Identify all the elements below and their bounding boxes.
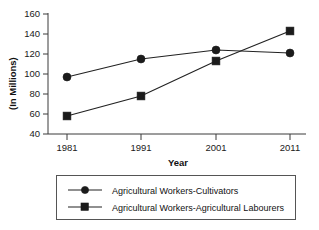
series-line-0 (67, 50, 290, 77)
y-tick-label-60: 60 (29, 108, 40, 119)
data-point-1-1991 (137, 92, 145, 100)
data-point-1-2001 (212, 57, 220, 65)
x-tick-label-1981: 1981 (56, 142, 77, 153)
circle-marker-icon (81, 186, 88, 193)
data-point-0-1991 (137, 55, 145, 63)
y-tick-label-100: 100 (24, 68, 40, 79)
data-point-1-2011 (286, 27, 294, 35)
line-chart: 160 140 120 100 80 60 40 (In Millions) 1… (0, 0, 319, 230)
y-tick-label-40: 40 (29, 128, 40, 139)
y-tick-label-80: 80 (29, 88, 40, 99)
data-point-0-2011 (286, 49, 294, 57)
data-point-1-1981 (63, 112, 71, 120)
x-tick-label-2001: 2001 (205, 142, 226, 153)
data-point-0-1981 (63, 73, 71, 81)
square-marker-icon (81, 203, 88, 210)
x-axis-title: Year (168, 157, 188, 168)
x-axis-ticks (67, 134, 290, 140)
y-tick-label-160: 160 (24, 8, 40, 19)
data-point-0-2001 (212, 46, 220, 54)
x-tick-label-1991: 1991 (130, 142, 151, 153)
y-tick-label-120: 120 (24, 48, 40, 59)
series-layer (63, 27, 294, 120)
y-tick-label-140: 140 (24, 28, 40, 39)
y-axis-title: (In Millions) (7, 57, 18, 110)
legend-box (57, 176, 296, 220)
series-line-1 (67, 31, 290, 116)
chart-container: 160 140 120 100 80 60 40 (In Millions) 1… (0, 0, 319, 230)
legend-label-labourers: Agricultural Workers-Agricultural Labour… (112, 203, 284, 213)
x-tick-label-2011: 2011 (280, 142, 300, 153)
y-axis-ticks (43, 14, 48, 134)
legend-label-cultivators: Agricultural Workers-Cultivators (112, 186, 239, 196)
